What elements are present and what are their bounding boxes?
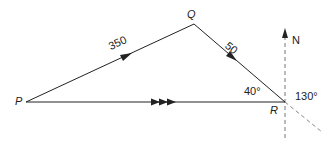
- qr-extension-dashed: [285, 102, 322, 132]
- point-label-q: Q: [187, 9, 196, 20]
- point-label-p: P: [15, 96, 22, 107]
- point-label-r: R: [270, 105, 278, 116]
- edge-qr: [194, 24, 285, 102]
- north-arrow-icon: [282, 28, 288, 38]
- angle-label-130: 130°: [295, 91, 318, 102]
- triple-arrow-icon: [151, 99, 176, 106]
- arrow-pq-icon: [120, 53, 132, 61]
- angle-label-40: 40°: [244, 86, 261, 97]
- edge-pq: [26, 24, 194, 102]
- vector-diagram: [0, 0, 328, 149]
- north-label: N: [292, 35, 300, 46]
